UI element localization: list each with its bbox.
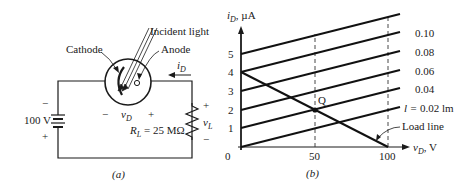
incident-light-label: Incident light [150,25,209,37]
x-axis-arrow-icon [402,144,410,150]
load-line-label: Load line [402,120,444,132]
svg-text:50: 50 [309,150,321,162]
svg-text:0: 0 [225,150,231,162]
svg-text:0.04: 0.04 [415,83,435,95]
vl-plus: + [203,99,209,111]
wire-top-right [151,81,192,103]
cathode-arrow-icon [113,66,119,73]
svg-text:0.06: 0.06 [415,65,435,77]
svg-text:0.10: 0.10 [415,27,435,39]
curve-0.10 [241,32,400,72]
y-axis-arrow-icon [238,26,244,34]
x-tick-labels: 50 100 [309,150,396,162]
source-plus: + [42,130,48,142]
illumination-curves [241,14,400,147]
source-voltage-label: 100 V [24,114,51,126]
vl-minus: − [203,133,209,145]
load-line-pointer [378,127,400,138]
load-line-arrow-icon [376,134,381,141]
q-point-label: Q [318,94,326,106]
iv-chart: iD, µA vD, V 5 4 3 2 1 0 50 100 [225,9,454,180]
anode-arrow-icon [137,73,142,80]
current-arrow-icon [168,72,175,78]
battery-icon [51,115,65,127]
source-minus: − [42,97,48,109]
y-tick-labels: 5 4 3 2 1 0 [225,48,234,162]
svg-text:1: 1 [228,122,234,134]
svg-text:5: 5 [228,48,234,60]
x-axis-label: vD, V [413,141,437,156]
vd-plus: + [148,108,154,120]
cathode-pointer [101,52,117,70]
y-axis-label: iD, µA [227,9,256,24]
photodiode-figure: 100 V − + Incident light Cathode Anode i… [0,0,466,189]
q-point-marker [312,107,317,112]
phototube-icon [105,59,151,105]
anode-icon [134,80,139,85]
caption-b: (b) [306,167,319,180]
svg-text:0.08: 0.08 [415,46,435,58]
vl-label: vL [203,116,213,131]
caption-a: (a) [112,168,125,181]
circuit-diagram: 100 V − + Incident light Cathode Anode i… [24,25,213,181]
svg-text:3: 3 [228,85,234,97]
curve-labels: 0.10 0.08 0.06 0.04 l = 0.02 lm [404,27,454,114]
svg-text:l = 0.02 lm: l = 0.02 lm [404,102,454,114]
svg-text:2: 2 [228,104,234,116]
rl-label: RL = 25 MΩ [129,124,185,139]
anode-label: Anode [161,43,190,55]
svg-text:4: 4 [228,66,234,78]
cathode-label: Cathode [66,43,103,55]
vd-label: vD [121,108,132,123]
wire-top-left [58,81,105,115]
current-label: iD [177,59,186,74]
svg-text:100: 100 [379,150,396,162]
vd-minus: − [102,108,108,120]
curve-0.12 [241,14,400,54]
